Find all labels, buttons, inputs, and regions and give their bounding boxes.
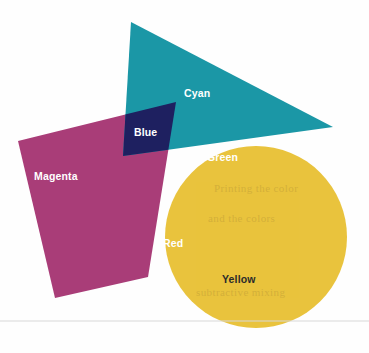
figure-canvas: Printing the color and the colors subtra…	[0, 0, 369, 353]
label-blue: Blue	[134, 126, 157, 138]
label-cyan: Cyan	[184, 87, 210, 99]
label-red: Red	[163, 237, 183, 249]
label-magenta: Magenta	[34, 170, 78, 182]
ghost-text-line-2: subtractive mixing	[196, 286, 285, 298]
label-yellow: Yellow	[222, 273, 256, 285]
yellow-circle-shape	[165, 146, 347, 328]
label-green: Green	[207, 151, 238, 163]
color-mixing-figure: Printing the color and the colors subtra…	[0, 0, 369, 353]
ghost-text-line-0: Printing the color	[214, 182, 298, 194]
ghost-text-line-1: and the colors	[208, 212, 275, 224]
